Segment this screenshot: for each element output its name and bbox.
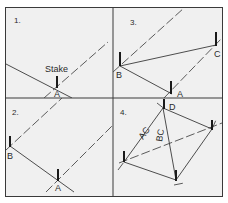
stake-label: Stake [45, 64, 68, 74]
point-d-label: D [169, 102, 176, 112]
panel-number: 4. [120, 108, 127, 117]
panel-number: 1. [14, 16, 21, 25]
point-b-label: B [7, 151, 13, 161]
staking-diagram: 1. Stake A 3. B C A 2. B A [0, 0, 228, 203]
point-a-label: A [177, 89, 183, 99]
panel-number: 3. [130, 18, 137, 27]
point-a-label: A [54, 89, 60, 99]
point-b-label: B [116, 70, 122, 80]
panel-number: 2. [12, 108, 19, 117]
point-c-label: C [214, 49, 221, 59]
point-a-label: A [55, 183, 61, 193]
outer-frame [6, 8, 223, 197]
